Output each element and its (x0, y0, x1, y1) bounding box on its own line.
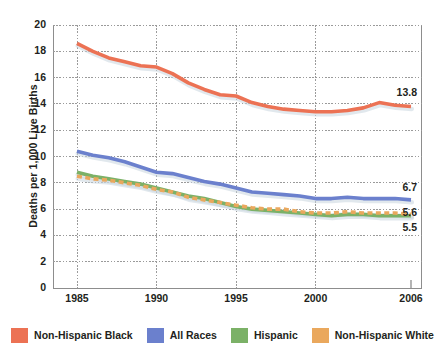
legend-item-hispanic[interactable]: Hispanic (231, 328, 298, 343)
end-label-non-hispanic-black: 13.8 (373, 86, 417, 98)
legend-swatch-icon (11, 328, 28, 343)
legend-item-all-races[interactable]: All Races (147, 328, 217, 343)
legend-swatch-icon (231, 328, 248, 343)
end-label-all-races: 6.7 (373, 181, 417, 193)
chart-legend: Non-Hispanic BlackAll RacesHispanicNon-H… (0, 322, 445, 348)
end-label-non-hispanic-white: 5.6 (373, 206, 417, 218)
end-label-hispanic: 5.5 (373, 221, 417, 233)
legend-label: Hispanic (254, 329, 298, 341)
chart-canvas (0, 0, 445, 356)
legend-item-non-hispanic-black[interactable]: Non-Hispanic Black (11, 328, 133, 343)
legend-item-non-hispanic-white[interactable]: Non-Hispanic White (312, 328, 434, 343)
legend-label: Non-Hispanic White (335, 329, 434, 341)
legend-label: All Races (170, 329, 217, 341)
infant-mortality-line-chart: Deaths per 1,000 Live Births 02468101214… (0, 0, 445, 356)
legend-label: Non-Hispanic Black (34, 329, 133, 341)
legend-swatch-icon (312, 328, 329, 343)
legend-swatch-icon (147, 328, 164, 343)
